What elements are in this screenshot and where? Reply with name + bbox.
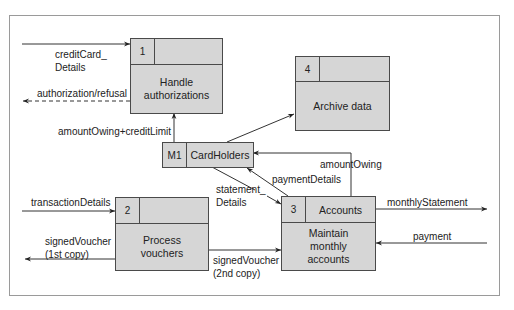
process-store-name: Accounts (306, 197, 375, 222)
flow-archive (227, 114, 294, 142)
label-statement-details: statement_ Details (216, 183, 265, 209)
label-signedvoucher-2nd: signedVoucher (2nd copy) (213, 254, 279, 280)
process-label-line: Handle (160, 76, 193, 89)
process-2-process-vouchers: 2 Process vouchers (115, 197, 209, 271)
process-label-line: Maintain (309, 227, 349, 240)
process-number: 4 (296, 57, 320, 81)
label-paymentdetails: paymentDetails (272, 173, 341, 186)
process-number: 1 (131, 39, 155, 64)
process-label-line: Process (143, 234, 181, 247)
label-amountowing-creditlimit: amountOwing+creditLimit (58, 125, 171, 138)
process-3-maintain-monthly-accounts: 3 Accounts Maintain monthly accounts (281, 196, 376, 271)
label-transactiondetails: transactionDetails (31, 196, 110, 209)
flow-statement-details-b (267, 196, 281, 204)
process-1-handle-authorizations: 1 Handle authorizations (130, 38, 223, 114)
label-monthlystatement: monthlyStatement (387, 196, 468, 209)
label-signedvoucher-1st: signedVoucher (1st copy) (45, 235, 111, 261)
process-label-line: accounts (307, 253, 349, 266)
process-label-line: monthly (310, 240, 347, 253)
process-label-line: authorizations (144, 89, 209, 102)
label-amountowing: amountOwing (320, 158, 382, 171)
process-number: 3 (282, 197, 306, 222)
label-authorization-refusal: authorization/refusal (37, 87, 127, 100)
label-payment: payment (413, 230, 451, 243)
process-label: Archive data (313, 100, 371, 113)
process-label-line: vouchers (141, 247, 184, 260)
process-4-archive-data: 4 Archive data (295, 56, 390, 131)
datastore-id: M1 (163, 143, 187, 167)
process-number: 2 (116, 198, 140, 223)
datastore-name: CardHolders (187, 143, 253, 167)
label-creditcard-details: creditCard_ Details (55, 48, 107, 74)
datastore-cardholders: M1 CardHolders (162, 142, 254, 168)
